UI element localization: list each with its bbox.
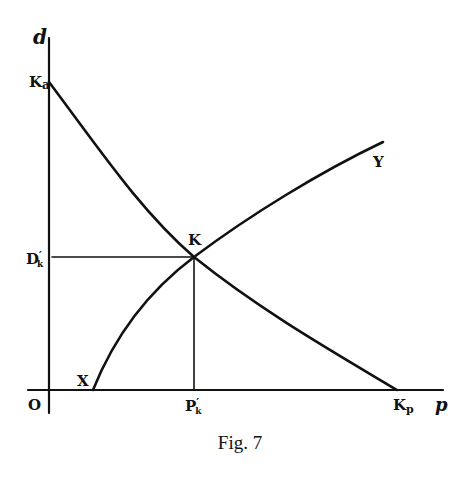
x-curve-label: X [77, 372, 89, 390]
y-curve-label: Y [372, 153, 384, 171]
d-axis-label: d [33, 25, 47, 49]
d-prime-k-label: D′k [26, 249, 44, 269]
figure-caption: Fig. 7 [218, 432, 262, 453]
p-prime-k-label: P′k [185, 396, 202, 416]
kp-label: Kp [393, 396, 414, 416]
ka-label: Ka [29, 73, 50, 92]
p-axis-label: p [435, 394, 448, 415]
fig-7-diagram: d Ka D′k K X Y O P′k Kp p Fig. 7 [0, 0, 468, 479]
curve-x-y [93, 142, 383, 390]
k-intersection-label: K [188, 231, 202, 249]
origin-label: O [28, 396, 41, 414]
